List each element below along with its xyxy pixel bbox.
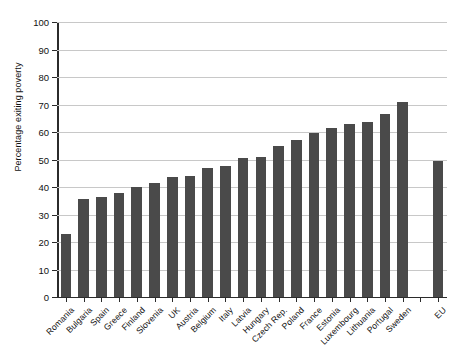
x-tick-mark (119, 297, 120, 302)
plot-area: 0102030405060708090100 RomaniaBulgariaSp… (57, 22, 447, 297)
bar (149, 183, 160, 297)
bar (309, 133, 320, 297)
y-tick-label: 10 (38, 264, 49, 275)
x-tick-mark (438, 297, 439, 302)
x-tick-mark (314, 297, 315, 302)
x-tick-label: EU (433, 305, 449, 321)
gridline (57, 105, 447, 106)
bar (326, 128, 337, 297)
bar (61, 234, 72, 297)
x-tick-mark (420, 297, 421, 302)
y-tick-label: 90 (38, 44, 49, 55)
bar (96, 197, 107, 297)
y-tick-mark (52, 215, 57, 216)
y-tick-label: 60 (38, 127, 49, 138)
y-tick-mark (52, 270, 57, 271)
bar (256, 157, 267, 297)
y-tick-label: 80 (38, 72, 49, 83)
bar (202, 168, 213, 297)
x-tick-mark (279, 297, 280, 302)
y-tick-label: 40 (38, 182, 49, 193)
x-tick-mark (225, 297, 226, 302)
y-tick-label: 20 (38, 237, 49, 248)
y-tick-label: 50 (38, 154, 49, 165)
x-tick-mark (367, 297, 368, 302)
y-tick-mark (52, 187, 57, 188)
x-tick-mark (403, 297, 404, 302)
bar (291, 140, 302, 297)
y-tick-label: 70 (38, 99, 49, 110)
bar (362, 122, 373, 297)
x-tick-mark (243, 297, 244, 302)
y-tick-mark (52, 132, 57, 133)
bar (78, 199, 89, 297)
x-tick-mark (66, 297, 67, 302)
x-tick-mark (137, 297, 138, 302)
bar (273, 146, 284, 297)
y-tick-mark (52, 77, 57, 78)
cut-off-title-sliver (24, 0, 234, 4)
gridline (57, 22, 447, 23)
gridline (57, 50, 447, 51)
gridline (57, 297, 447, 298)
y-axis-title: Percentage exiting poverty (13, 47, 23, 187)
bar (114, 193, 125, 298)
y-tick-mark (52, 297, 57, 298)
y-tick-mark (52, 105, 57, 106)
bar (238, 158, 249, 297)
bar (397, 102, 408, 297)
y-tick-mark (52, 22, 57, 23)
bar (185, 176, 196, 297)
y-tick-mark (52, 50, 57, 51)
x-tick-mark (155, 297, 156, 302)
bar (344, 124, 355, 297)
bar (433, 161, 444, 297)
y-tick-mark (52, 242, 57, 243)
x-tick-mark (190, 297, 191, 302)
bar (131, 187, 142, 297)
bar (167, 177, 178, 297)
gridline (57, 77, 447, 78)
y-tick-mark (52, 160, 57, 161)
x-tick-mark (101, 297, 102, 302)
y-tick-label: 100 (33, 17, 49, 28)
x-tick-mark (332, 297, 333, 302)
bar (220, 166, 231, 297)
x-tick-mark (385, 297, 386, 302)
x-tick-mark (261, 297, 262, 302)
x-tick-mark (84, 297, 85, 302)
bar-chart-figure: Percentage exiting poverty 0102030405060… (0, 0, 462, 355)
x-tick-mark (296, 297, 297, 302)
y-tick-label: 0 (44, 292, 49, 303)
y-tick-label: 30 (38, 209, 49, 220)
x-tick-mark (208, 297, 209, 302)
x-tick-mark (172, 297, 173, 302)
bar (380, 114, 391, 297)
x-tick-mark (350, 297, 351, 302)
